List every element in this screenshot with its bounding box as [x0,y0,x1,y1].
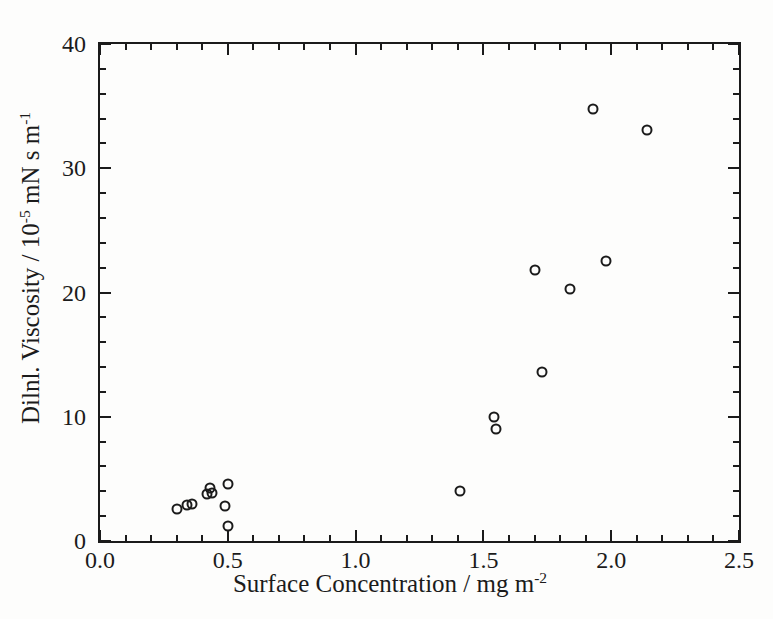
minor-x-axis-tick [508,535,510,541]
major-x-axis-tick [610,530,612,541]
minor-y-axis-right-tick [733,490,739,492]
data-point-circle [565,283,576,294]
major-x-axis-top-tick [227,44,229,55]
data-point-circle [488,411,499,422]
minor-x-axis-tick [687,535,689,541]
minor-y-axis-right-tick [733,68,739,70]
minor-x-axis-tick [278,535,280,541]
minor-y-axis-right-tick [733,142,739,144]
minor-y-axis-right-tick [733,316,739,318]
minor-y-axis-right-tick [733,366,739,368]
minor-y-axis-right-tick [733,118,739,120]
minor-x-axis-top-tick [406,44,408,50]
axis-title-superscript: -5 [16,210,33,223]
minor-x-axis-top-tick [712,44,714,50]
minor-x-axis-tick [329,535,331,541]
minor-y-axis-right-tick [733,441,739,443]
data-point-circle [222,478,233,489]
data-point-circle [588,103,599,114]
minor-x-axis-top-tick [508,44,510,50]
x-tick-label: 2.5 [724,547,754,573]
major-y-axis-right-tick [728,416,739,418]
minor-x-axis-top-tick [329,44,331,50]
minor-y-axis-tick [100,217,106,219]
major-y-axis-right-tick [728,167,739,169]
major-y-axis-tick [100,540,111,542]
axis-title-text: Surface Concentration / mg m [233,570,534,597]
minor-y-axis-tick [100,118,106,120]
minor-x-axis-top-tick [559,44,561,50]
minor-x-axis-tick [380,535,382,541]
minor-y-axis-tick [100,192,106,194]
data-point-circle [641,124,652,135]
minor-x-axis-tick [636,535,638,541]
major-x-axis-top-tick [738,44,740,55]
axis-title-superscript: -2 [534,569,547,586]
minor-x-axis-tick [176,535,178,541]
axis-title-text: Dilnl. Viscosity / 10 [17,223,44,424]
axis-title-superscript: -1 [16,112,33,125]
data-point-circle [187,498,198,509]
major-y-axis-tick [100,292,111,294]
data-point-circle [222,521,233,532]
minor-y-axis-tick [100,341,106,343]
minor-x-axis-tick [150,535,152,541]
data-point-circle [529,265,540,276]
major-y-axis-tick [100,43,111,45]
minor-x-axis-tick [303,535,305,541]
minor-x-axis-tick [201,535,203,541]
minor-y-axis-right-tick [733,341,739,343]
minor-x-axis-top-tick [457,44,459,50]
x-axis-title: Surface Concentration / mg m-2 [233,570,547,598]
minor-y-axis-right-tick [733,391,739,393]
x-tick-label: 2.0 [596,547,626,573]
minor-x-axis-tick [457,535,459,541]
minor-x-axis-top-tick [534,44,536,50]
y-tick-label: 40 [30,30,86,58]
major-x-axis-top-tick [610,44,612,55]
minor-x-axis-tick [431,535,433,541]
minor-x-axis-tick [661,535,663,541]
data-point-circle [601,256,612,267]
minor-y-axis-tick [100,441,106,443]
minor-y-axis-tick [100,316,106,318]
minor-x-axis-top-tick [201,44,203,50]
minor-x-axis-top-tick [278,44,280,50]
y-tick-label: 0 [30,527,86,555]
minor-y-axis-right-tick [733,242,739,244]
minor-x-axis-top-tick [636,44,638,50]
minor-x-axis-tick [252,535,254,541]
minor-x-axis-top-tick [380,44,382,50]
plot-canvas [100,44,739,541]
minor-x-axis-top-tick [252,44,254,50]
minor-y-axis-tick [100,142,106,144]
minor-y-axis-right-tick [733,93,739,95]
major-y-axis-right-tick [728,292,739,294]
minor-x-axis-top-tick [303,44,305,50]
minor-x-axis-tick [585,535,587,541]
major-x-axis-top-tick [355,44,357,55]
minor-x-axis-top-tick [661,44,663,50]
minor-x-axis-top-tick [125,44,127,50]
minor-x-axis-top-tick [585,44,587,50]
minor-y-axis-tick [100,490,106,492]
data-point-circle [491,424,502,435]
minor-y-axis-right-tick [733,465,739,467]
minor-y-axis-right-tick [733,192,739,194]
minor-y-axis-tick [100,465,106,467]
major-x-axis-tick [227,530,229,541]
minor-y-axis-right-tick [733,515,739,517]
major-y-axis-right-tick [728,43,739,45]
axis-title-text: mN s m [17,125,44,210]
scatter-plot-figure: 0.00.51.01.52.02.5 010203040 Surface Con… [0,0,773,619]
plot-area [98,42,741,543]
minor-x-axis-tick [534,535,536,541]
data-point-circle [537,367,548,378]
minor-x-axis-tick [712,535,714,541]
minor-y-axis-tick [100,366,106,368]
data-point-circle [220,501,231,512]
minor-y-axis-tick [100,267,106,269]
minor-x-axis-top-tick [176,44,178,50]
minor-x-axis-top-tick [431,44,433,50]
major-y-axis-tick [100,167,111,169]
